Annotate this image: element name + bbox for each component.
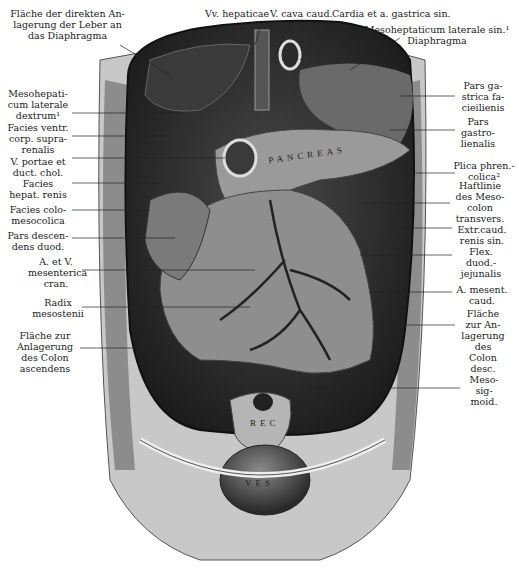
label-v-cava-caud: V. cava caud.: [270, 8, 332, 19]
label-liver-diaphragm-surface: Fläche der direkten An- lagerung der Leb…: [10, 8, 125, 41]
label-vesica: VES: [245, 478, 274, 488]
label-cardia: Cardia et a. gastrica sin.: [332, 8, 451, 19]
label-pars-descendens-duod: Pars descen- dens duod.: [6, 230, 70, 252]
label-pars-gastrolienalis: Pars gastro- lienalis: [456, 116, 500, 149]
label-rectum: REC: [250, 418, 280, 428]
label-facies-ventr-suprarenalis: Facies ventr. corp. supra- renalis: [6, 122, 70, 155]
label-v-portae: V. portae et duct. chol.: [6, 156, 70, 178]
label-mesenterica-cran: A. et V. mesenterica cran.: [28, 256, 84, 289]
label-pars-gastrica: Pars ga- strica fa- cieilienis: [456, 80, 510, 113]
label-flex-duodenojejunalis: Flex. duod.- jejunalis: [456, 246, 506, 279]
label-mesosigmoid: Meso- sig- moid.: [464, 374, 504, 407]
label-mesoheptaticum-sin-diaphragma: Mesoheptaticum laterale sin.¹ Diaphragma: [362, 24, 512, 46]
label-mesohepaticum-dextrum: Mesohepati- cum laterale dextrum¹: [6, 88, 70, 121]
label-radix-mesostenii: Radix mesostenii: [30, 297, 86, 319]
label-colon-desc-surface: Fläche zur An- lagerung des Colon desc.: [458, 308, 508, 374]
label-plica-phrenicocolica: Plica phren.- colica²: [452, 160, 516, 182]
label-a-mesent-caud: A. mesent. caud.: [452, 284, 512, 306]
label-haftlinie-mesocolon: Haftlinie des Meso- colon transvers.: [452, 180, 508, 224]
label-vv-hepaticae: Vv. hepaticae: [205, 8, 269, 19]
label-facies-hepat-renis: Facies hepat. renis: [6, 178, 70, 200]
label-colon-ascendens-surface: Fläche zur Anlagerung des Colon ascenden…: [14, 330, 76, 374]
label-extr-caud-renis: Extr.caud. renis sin.: [452, 224, 512, 246]
label-facies-colomesocolica: Facies colo- mesocolica: [6, 204, 70, 226]
anatomical-figure: PANCREAS REC VES Fläche der direkten An-…: [0, 0, 519, 569]
